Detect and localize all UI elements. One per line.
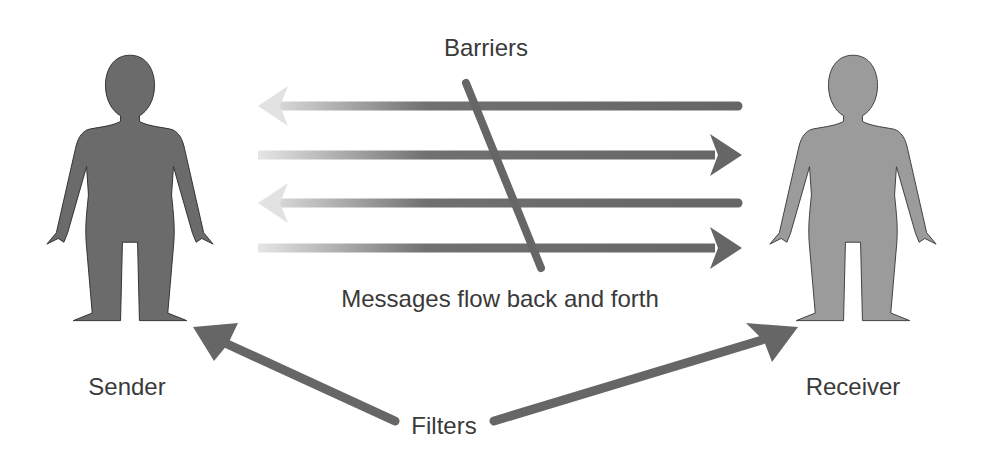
sender-figure-icon [47,55,213,320]
barriers-label: Barriers [444,34,528,62]
receiver-figure-icon [770,55,936,320]
receiver-label: Receiver [806,373,901,401]
message-arrow-right-2 [258,227,742,269]
barrier-line [466,83,541,268]
message-arrow-left-2 [258,183,738,223]
filter-arrow-to-receiver [494,323,798,421]
message-arrow-left-1 [258,86,738,126]
sender-label: Sender [88,373,165,401]
filter-arrow-to-sender [193,323,395,421]
messages-label: Messages flow back and forth [341,285,659,313]
filters-label: Filters [411,412,476,440]
